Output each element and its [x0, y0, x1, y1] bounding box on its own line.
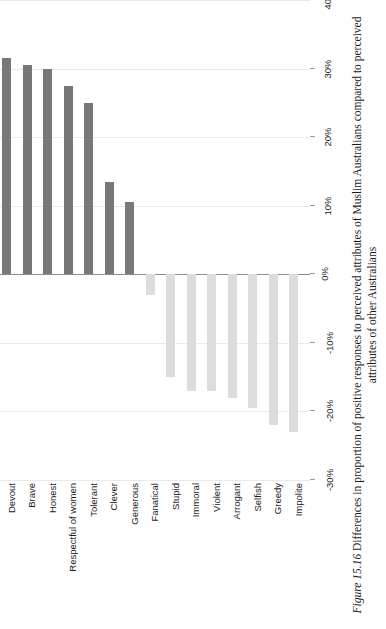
x-axis-tick-label: Stupid — [171, 483, 181, 510]
x-axis-tick: Tolerant — [84, 480, 93, 620]
x-axis-tick: Clever — [105, 480, 114, 620]
chart-plot-area — [0, 0, 310, 480]
y-axis-tick: -10% — [310, 336, 344, 350]
x-axis: DevoutBraveHonestRespectful of womenTole… — [0, 480, 310, 629]
x-axis-tick-label: Fanatical — [150, 483, 160, 522]
x-axis-tick-label: Devout — [7, 483, 17, 513]
x-axis-tick-label: Honest — [48, 483, 58, 513]
x-axis-tick-label: Selfish — [253, 483, 263, 512]
x-axis-tick: Impolite — [289, 480, 298, 620]
bar — [2, 58, 11, 274]
x-axis-tick: Arrogant — [228, 480, 237, 620]
bar — [23, 65, 32, 274]
figure-caption: Figure 15.16 Differences in proportion o… — [344, 0, 386, 629]
x-axis-tick: Fanatical — [146, 480, 155, 620]
y-axis-tick-label: -30% — [324, 469, 335, 491]
y-axis-tick-mark — [310, 479, 315, 480]
x-axis-tick-label: Generous — [130, 483, 140, 525]
x-axis-tick-label: Greedy — [273, 483, 283, 514]
y-axis-tick: 0% — [310, 267, 344, 281]
y-axis-tick-label: 20% — [322, 128, 333, 147]
y-axis-tick-mark — [310, 273, 315, 274]
bar — [228, 274, 237, 397]
bar — [43, 69, 52, 275]
x-axis-tick: Selfish — [248, 480, 257, 620]
y-axis-tick-label: -10% — [324, 332, 335, 354]
x-axis-tick-label: Brave — [27, 483, 37, 508]
bar — [125, 202, 134, 274]
figure-caption-label: Figure 15.16 — [351, 553, 363, 613]
bar — [207, 274, 216, 391]
y-axis-tick-label: -20% — [324, 400, 335, 422]
bar — [64, 86, 73, 275]
gridline — [0, 0, 310, 1]
figure-container: 40%30%20%10%0%-10%-20%-30% DevoutBraveHo… — [0, 0, 386, 629]
x-axis-tick-label: Violent — [212, 483, 222, 512]
bar — [146, 274, 155, 295]
bar — [187, 274, 196, 391]
gridline — [0, 411, 310, 412]
bar — [248, 274, 257, 408]
y-axis-tick-mark — [310, 410, 315, 411]
y-axis-tick: 30% — [310, 62, 344, 76]
y-axis: 40%30%20%10%0%-10%-20%-30% — [310, 0, 344, 480]
figure-caption-text: Differences in proportion of positive re… — [351, 16, 378, 550]
bar — [289, 274, 298, 432]
x-axis-tick-label: Clever — [109, 483, 119, 510]
y-axis-tick-label: 30% — [322, 59, 333, 78]
y-axis-tick: 20% — [310, 130, 344, 144]
x-axis-tick-label: Respectful of women — [68, 483, 78, 572]
gridline — [0, 343, 310, 344]
x-axis-tick-label: Immoral — [191, 483, 201, 517]
y-axis-tick-label: 40% — [322, 0, 333, 10]
y-axis-tick: -20% — [310, 404, 344, 418]
x-axis-tick-label: Impolite — [294, 483, 304, 516]
x-axis-tick: Immoral — [187, 480, 196, 620]
bar — [166, 274, 175, 377]
y-axis-tick: 10% — [310, 199, 344, 213]
bar — [105, 182, 114, 275]
x-axis-tick: Devout — [2, 480, 11, 620]
y-axis-tick-mark — [310, 205, 315, 206]
x-axis-tick: Greedy — [269, 480, 278, 620]
y-axis-tick: -30% — [310, 473, 344, 487]
bar — [269, 274, 278, 425]
x-axis-tick: Brave — [23, 480, 32, 620]
y-axis-tick-label: 0% — [319, 267, 330, 281]
y-axis-tick-label: 10% — [322, 196, 333, 215]
x-axis-tick-label: Arrogant — [232, 483, 242, 519]
y-axis-tick-mark — [310, 136, 315, 137]
x-axis-tick: Respectful of women — [64, 480, 73, 620]
x-axis-tick-label: Tolerant — [89, 483, 99, 517]
bar — [84, 103, 93, 274]
zero-baseline — [0, 274, 310, 275]
y-axis-tick: 40% — [310, 0, 344, 7]
x-axis-tick: Stupid — [166, 480, 175, 620]
x-axis-tick: Violent — [207, 480, 216, 620]
y-axis-tick-mark — [310, 342, 315, 343]
x-axis-tick: Generous — [125, 480, 134, 620]
y-axis-tick-mark — [310, 68, 315, 69]
x-axis-tick: Honest — [43, 480, 52, 620]
